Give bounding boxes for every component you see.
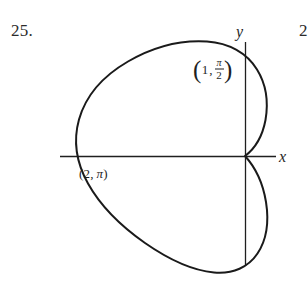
point-label-left-prefix: (2,: [79, 166, 96, 181]
point-label-comma: ,: [209, 63, 212, 76]
open-paren-glyph: (: [193, 60, 201, 78]
y-axis-label: y: [236, 24, 243, 40]
fraction-numerator: π: [216, 58, 223, 69]
point-label-left-suffix: ): [103, 166, 108, 181]
point-label-1-pi-over-2: ( 1 , π 2 ): [193, 58, 232, 81]
point-label-2-pi: (2, π): [79, 167, 108, 180]
polar-curve-figure: 25. 2 x y ( 1 , π 2 ) (2, π): [0, 0, 308, 283]
fraction-denominator: 2: [215, 69, 223, 81]
x-axis-label: x: [279, 149, 286, 165]
close-paren-glyph: ): [224, 60, 232, 78]
cardioid-plot: [0, 0, 308, 283]
point-label-radius: 1: [202, 63, 209, 76]
tuple-contents: 1 , π 2: [201, 58, 224, 81]
fraction-pi-over-2: π 2: [215, 58, 224, 81]
